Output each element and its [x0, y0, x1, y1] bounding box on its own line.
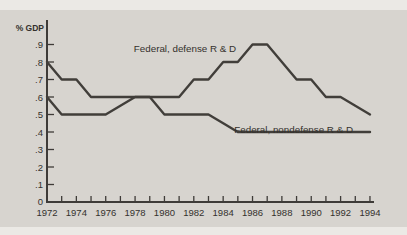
y-axis-title: % GDP: [16, 23, 45, 33]
x-tick-label: 1978: [125, 207, 146, 218]
x-tick-label: 1990: [301, 207, 322, 218]
y-tick-label: .8: [35, 57, 43, 68]
y-tick-label: .5: [35, 109, 43, 120]
x-tick-label: 1994: [359, 207, 380, 218]
x-tick-label: 1972: [36, 207, 57, 218]
y-tick-label: .7: [35, 74, 43, 85]
defense-line-label: Federal, defense R & D: [134, 43, 236, 54]
x-tick-label: 1976: [95, 207, 116, 218]
x-tick-label: 1986: [242, 207, 263, 218]
x-tick-label: 1974: [66, 207, 87, 218]
origin-label: 0: [38, 196, 43, 207]
scanned-textbook-figure: .1.2.3.4.5.6.7.8.90197219741976197819801…: [0, 0, 407, 235]
nondefense-line-label: Federal, nondefense R & D: [234, 124, 353, 135]
x-tick-label: 1992: [330, 207, 351, 218]
x-tick-label: 1988: [271, 207, 292, 218]
x-tick-label: 1980: [154, 207, 175, 218]
y-tick-label: .3: [35, 144, 43, 155]
y-tick-label: .6: [35, 92, 43, 103]
rd-spending-gdp-chart: .1.2.3.4.5.6.7.8.90197219741976197819801…: [0, 0, 407, 235]
y-tick-label: .2: [35, 162, 43, 173]
x-tick-label: 1982: [183, 207, 204, 218]
y-tick-label: .1: [35, 179, 43, 190]
x-tick-label: 1984: [213, 207, 234, 218]
y-tick-label: .9: [35, 39, 43, 50]
y-tick-label: .4: [35, 127, 43, 138]
